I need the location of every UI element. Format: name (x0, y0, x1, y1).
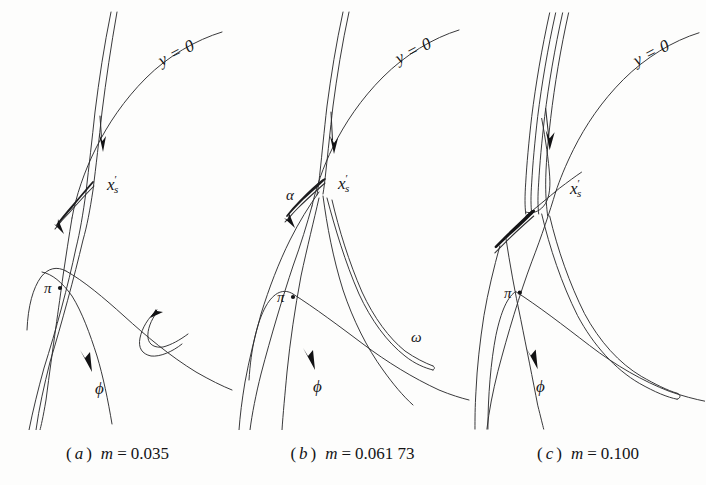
arrow-alpha-b (284, 213, 295, 228)
curve-cusp-outer-c (542, 214, 677, 399)
caption-c-symbol: m (571, 444, 583, 463)
curve-stable-manifold-b (317, 12, 343, 195)
curve-nullcline-b-lower (250, 206, 312, 430)
curve-unstable-manifold-b (323, 12, 349, 194)
point-pi-b (291, 295, 295, 299)
point-pi-a (58, 286, 62, 290)
caption-b-open-paren: ( (290, 444, 296, 463)
caption-c-close-paren: ) (556, 444, 562, 463)
label-phi-b: ϕ (313, 378, 322, 395)
caption-row: (a)m=0.035 (b)m=0.061 73 (c)m=0.100 (0, 432, 706, 485)
caption-b-value: 0.061 73 (355, 444, 415, 463)
panel-b: y = 0 x′s α ω π ϕ (235, 0, 470, 430)
panel-a: y = 0 x′s π ϕ (0, 0, 235, 430)
caption-panel-b: (b)m=0.061 73 (235, 444, 470, 464)
curve-cusp-tail-a (66, 271, 232, 390)
caption-c-open-paren: ( (537, 444, 543, 463)
caption-a-value: 0.035 (131, 444, 169, 463)
arrow-down-upper-c (546, 130, 555, 150)
curve-nullcline-a (72, 32, 222, 218)
caption-panel-c: (c)m=0.100 (470, 444, 706, 464)
curve-nullcline-c (556, 33, 699, 192)
arrow-phi-b (303, 348, 315, 370)
caption-b-equals: = (342, 444, 352, 463)
curve-lobe-strand-a (55, 186, 94, 229)
label-saddle-a: x′s (107, 174, 118, 195)
label-saddle-b: x′s (338, 173, 349, 194)
caption-c-index: c (546, 444, 554, 463)
curve-left-branch-c (475, 246, 500, 429)
label-phi-a: ϕ (95, 380, 104, 397)
caption-a-open-paren: ( (66, 444, 72, 463)
curve-hump-c (488, 292, 516, 429)
arrow-phi-a (80, 350, 92, 372)
curve-stable-manifold-a (29, 12, 111, 430)
curve-unstable-manifold-a (36, 12, 117, 430)
caption-c-value: 0.100 (601, 444, 639, 463)
caption-b-symbol: m (325, 444, 337, 463)
label-saddle-sub-b: s (345, 182, 349, 194)
label-pi-c: π (504, 286, 512, 301)
caption-c-equals: = (587, 444, 597, 463)
label-saddle-c: x′s (570, 178, 581, 199)
label-pi-b: π (277, 290, 285, 305)
figure-root: y = 0 x′s π ϕ (0, 0, 706, 485)
curve-extra-branch-b (323, 196, 413, 405)
caption-b-close-paren: ) (311, 444, 317, 463)
panel-b-plot (235, 0, 470, 430)
curve-cusp-inner-c (550, 216, 677, 393)
caption-a-symbol: m (101, 444, 113, 463)
label-saddle-sub-a: s (114, 183, 118, 195)
label-saddle-sub-c: s (577, 187, 581, 199)
label-omega-b: ω (411, 330, 422, 345)
label-pi-a: π (44, 281, 52, 296)
arrow-cusp-a (150, 309, 163, 318)
curve-phi-a (42, 272, 112, 424)
curve-cusp-loop-a (139, 310, 182, 356)
label-phi-c: ϕ (536, 378, 545, 395)
curve-omega-tip-b (433, 366, 435, 370)
panel-c-plot (470, 0, 705, 430)
curve-tangle-strand-c (495, 216, 534, 253)
arrow-phi-c (526, 347, 538, 369)
caption-panel-a: (a)m=0.035 (0, 444, 235, 464)
curve-nullcline-a-lower (40, 218, 72, 430)
caption-a-equals: = (117, 444, 127, 463)
panel-a-plot (0, 0, 235, 430)
caption-b-index: b (299, 444, 308, 463)
caption-a-close-paren: ) (86, 444, 92, 463)
caption-a-index: a (75, 444, 84, 463)
panel-c: y = 0 x′s π ϕ (470, 0, 705, 430)
curve-tangle-c (496, 211, 534, 247)
curve-phi-c (506, 238, 544, 429)
label-alpha-b: α (286, 188, 294, 203)
